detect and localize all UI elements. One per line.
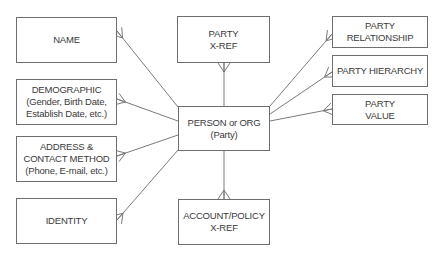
relationship-line-party_hierarchy bbox=[270, 72, 332, 114]
entity-party-value[interactable]: PARTY VALUE bbox=[332, 94, 428, 125]
entity-party-xref[interactable]: PARTY X-REF bbox=[177, 16, 270, 63]
entity-demographic[interactable]: DEMOGRAPHIC (Gender, Birth Date, Establi… bbox=[16, 79, 117, 125]
entity-party-relationship[interactable]: PARTY RELATIONSHIP bbox=[332, 16, 428, 48]
entity-person-or-org-label: PERSON or ORG (Party) bbox=[188, 117, 261, 141]
entity-party-xref-label: PARTY X-REF bbox=[209, 28, 239, 52]
entity-account-xref-label: ACCOUNT/POLICY X-REF bbox=[183, 210, 265, 234]
relationship-line-address bbox=[117, 135, 178, 156]
entity-party-relationship-label: PARTY RELATIONSHIP bbox=[347, 20, 414, 44]
entity-party-hierarchy[interactable]: PARTY HIERARCHY bbox=[332, 55, 428, 87]
crows-foot-icon-account_xref bbox=[218, 190, 230, 199]
entity-party-value-label: PARTY VALUE bbox=[365, 98, 395, 122]
entity-identity[interactable]: IDENTITY bbox=[16, 198, 117, 244]
entity-address-label: ADDRESS & CONTACT METHOD (Phone, E-mail,… bbox=[23, 141, 109, 177]
entity-demographic-label: DEMOGRAPHIC (Gender, Birth Date, Establi… bbox=[26, 84, 107, 120]
relationship-line-demographic bbox=[117, 99, 178, 121]
entity-address-contact[interactable]: ADDRESS & CONTACT METHOD (Phone, E-mail,… bbox=[16, 136, 117, 182]
entity-account-policy-xref[interactable]: ACCOUNT/POLICY X-REF bbox=[178, 199, 270, 245]
entity-identity-label: IDENTITY bbox=[46, 215, 88, 227]
entity-name-label: NAME bbox=[53, 34, 80, 46]
entity-person-or-org[interactable]: PERSON or ORG (Party) bbox=[178, 106, 270, 151]
relationship-line-party_relationship bbox=[270, 34, 332, 106]
entity-name[interactable]: NAME bbox=[16, 17, 117, 63]
relationship-line-identity bbox=[117, 150, 178, 220]
relationship-line-party_value bbox=[270, 109, 332, 121]
entity-party-hierarchy-label: PARTY HIERARCHY bbox=[337, 65, 423, 77]
relationship-line-name bbox=[117, 31, 178, 107]
crows-foot-icon-party_xref bbox=[218, 63, 230, 72]
